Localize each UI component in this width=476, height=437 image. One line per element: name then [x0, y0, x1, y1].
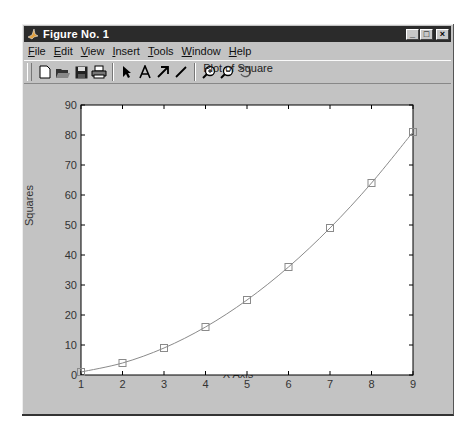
y-tick-label: 0 — [71, 369, 77, 381]
x-tick-label: 6 — [285, 378, 291, 390]
y-tick-label: 50 — [65, 219, 77, 231]
y-tick-label: 60 — [65, 189, 77, 201]
y-tick-label: 10 — [65, 339, 77, 351]
axes-box — [81, 105, 413, 375]
x-tick-label: 9 — [410, 378, 416, 390]
y-tick-label: 70 — [65, 159, 77, 171]
y-tick-label: 20 — [65, 309, 77, 321]
x-tick-label: 3 — [161, 378, 167, 390]
x-tick-label: 5 — [244, 378, 250, 390]
x-tick-label: 7 — [327, 378, 333, 390]
x-tick-label: 8 — [368, 378, 374, 390]
x-tick-label: 4 — [202, 378, 208, 390]
y-tick-label: 40 — [65, 249, 77, 261]
y-tick-label: 80 — [65, 129, 77, 141]
y-tick-label: 30 — [65, 279, 77, 291]
plot-area[interactable]: 1234567890102030405060708090 — [0, 0, 476, 437]
x-tick-label: 1 — [78, 378, 84, 390]
y-tick-label: 90 — [65, 99, 77, 111]
x-tick-label: 2 — [119, 378, 125, 390]
